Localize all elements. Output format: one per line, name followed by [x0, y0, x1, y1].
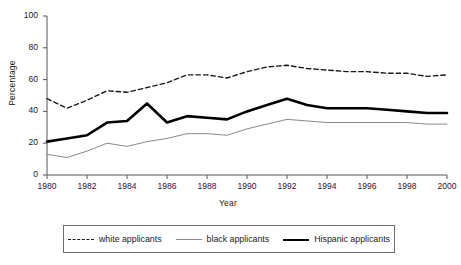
data-series: [47, 65, 447, 157]
chart-legend: white applicants black applicants Hispan…: [63, 225, 395, 253]
legend-item-white: white applicants: [68, 234, 162, 244]
series-line: [47, 119, 447, 157]
thin-line-icon: [176, 235, 202, 243]
series-line: [47, 65, 447, 108]
series-line: [47, 99, 447, 142]
legend-label: black applicants: [207, 234, 270, 244]
legend-label: Hispanic applicants: [314, 234, 390, 244]
axes: [43, 16, 447, 179]
legend-item-black: black applicants: [176, 234, 270, 244]
dashed-line-icon: [68, 235, 94, 243]
legend-label: white applicants: [99, 234, 162, 244]
thick-line-icon: [283, 235, 309, 243]
legend-item-hispanic: Hispanic applicants: [283, 234, 390, 244]
